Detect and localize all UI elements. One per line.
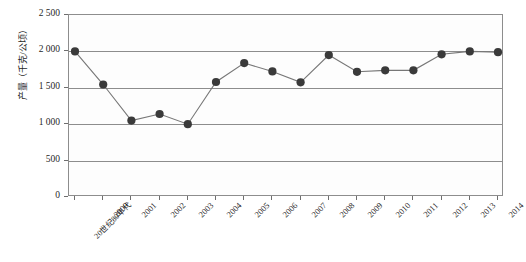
y-axis-tick-label: 500 bbox=[14, 155, 60, 165]
x-axis-tick-mark bbox=[412, 196, 413, 200]
data-point-marker bbox=[184, 120, 192, 128]
y-axis-tick-label: 1 500 bbox=[14, 82, 60, 92]
chart-container: 产量（千克/公顷） 05001 0001 5002 0002 500 20世纪8… bbox=[0, 0, 526, 262]
data-point-marker bbox=[71, 47, 79, 55]
x-axis-tick-label: 2008 bbox=[338, 201, 356, 219]
x-axis-tick-label: 2013 bbox=[479, 201, 497, 219]
plot-area bbox=[68, 14, 503, 196]
x-axis-tick-label: 2010 bbox=[394, 201, 412, 219]
data-point-marker bbox=[325, 51, 333, 59]
data-point-marker bbox=[466, 47, 474, 55]
x-axis-tick-mark bbox=[159, 196, 160, 200]
x-axis-tick-mark bbox=[187, 196, 188, 200]
y-axis-tick-labels: 05001 0001 5002 0002 500 bbox=[14, 0, 60, 262]
data-point-marker bbox=[156, 110, 164, 118]
x-axis-tick-label: 2003 bbox=[197, 201, 215, 219]
data-point-marker bbox=[409, 66, 417, 74]
x-axis-tick-mark bbox=[102, 196, 103, 200]
x-axis-tick-label: 2007 bbox=[310, 201, 328, 219]
x-axis-tick-label: 2005 bbox=[253, 201, 271, 219]
x-axis-tick-mark bbox=[271, 196, 272, 200]
series-line-yield bbox=[69, 15, 504, 197]
x-axis-tick-label: 2004 bbox=[225, 201, 243, 219]
x-axis-tick-mark bbox=[300, 196, 301, 200]
data-point-marker bbox=[297, 78, 305, 86]
x-axis-tick-label: 2012 bbox=[451, 201, 469, 219]
data-point-marker bbox=[353, 68, 361, 76]
y-axis-tick-label: 2 000 bbox=[14, 45, 60, 55]
x-axis-tick-mark bbox=[441, 196, 442, 200]
x-axis-tick-label: 2000 bbox=[112, 201, 130, 219]
data-point-marker bbox=[381, 66, 389, 74]
data-point-marker bbox=[268, 67, 276, 75]
data-point-marker bbox=[127, 116, 135, 124]
x-axis-tick-mark bbox=[469, 196, 470, 200]
x-axis-tick-label: 2011 bbox=[422, 201, 440, 219]
x-axis-tick-label: 2001 bbox=[140, 201, 158, 219]
x-axis-tick-mark bbox=[497, 196, 498, 200]
x-axis-tick-label: 2014 bbox=[507, 201, 525, 219]
x-axis-tick-label: 2009 bbox=[366, 201, 384, 219]
series-polyline bbox=[75, 51, 498, 124]
x-axis-tick-label: 2002 bbox=[169, 201, 187, 219]
x-axis-tick-mark bbox=[130, 196, 131, 200]
x-axis-tick-mark bbox=[74, 196, 75, 200]
x-axis-tick-labels: 20世纪80年代20002001200220032004200520062007… bbox=[68, 201, 503, 262]
x-axis-tick-mark bbox=[356, 196, 357, 200]
x-axis-tick-mark bbox=[384, 196, 385, 200]
y-axis-tick-label: 2 500 bbox=[14, 9, 60, 19]
x-axis-tick-mark bbox=[243, 196, 244, 200]
data-point-marker bbox=[99, 80, 107, 88]
data-point-marker bbox=[212, 78, 220, 86]
data-point-marker bbox=[438, 50, 446, 58]
y-axis-tick-label: 0 bbox=[14, 191, 60, 201]
x-axis-tick-mark bbox=[328, 196, 329, 200]
x-axis-tick-label: 2006 bbox=[281, 201, 299, 219]
data-point-marker bbox=[494, 48, 502, 56]
x-axis-tick-mark bbox=[215, 196, 216, 200]
y-axis-tick-label: 1 000 bbox=[14, 118, 60, 128]
data-point-marker bbox=[240, 59, 248, 67]
